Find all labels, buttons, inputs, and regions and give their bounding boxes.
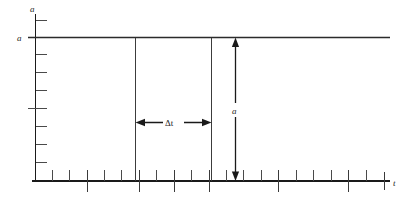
acceleration-time-figure: Δt a a a t — [0, 0, 409, 206]
y-axis-label: a — [30, 4, 35, 14]
magnitude-a-label: a — [232, 106, 237, 116]
figure-canvas: Δt a a a t — [0, 0, 409, 206]
delta-t-dimension-arrow — [136, 116, 212, 129]
y-value-label-a: a — [17, 33, 22, 43]
delta-t-label: Δt — [165, 118, 174, 128]
y-axis-ticks — [28, 21, 47, 163]
x-axis-label: t — [393, 178, 396, 188]
